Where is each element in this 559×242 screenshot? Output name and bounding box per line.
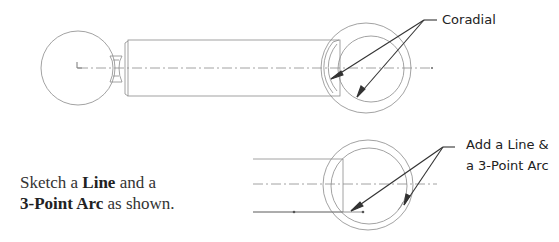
coradial-arc-inner xyxy=(328,44,337,91)
inner-circle-bottom xyxy=(331,148,407,224)
coradial-leader xyxy=(331,20,437,97)
callout-line-2: a 3-Point Arc xyxy=(466,155,549,176)
arrowhead-icon xyxy=(331,71,343,79)
instruction-text: Sketch a Line and a 3-Point Arc as shown… xyxy=(20,172,175,214)
instruction-part3: as shown. xyxy=(103,194,174,213)
inner-circle-top xyxy=(338,36,404,102)
add-line-arc-label: Add a Line & a 3-Point Arc xyxy=(466,134,549,176)
outer-circle-bottom xyxy=(323,140,413,230)
callout-line-1: Add a Line & xyxy=(466,134,549,155)
arrowhead-icon xyxy=(351,202,363,211)
three-point-arc xyxy=(398,202,403,210)
instruction-part1: Sketch a xyxy=(20,173,82,192)
arrowhead-icon xyxy=(357,86,365,97)
instruction-part2: and a xyxy=(115,173,156,192)
neck xyxy=(110,56,122,82)
coradial-label: Coradial xyxy=(442,9,496,30)
coradial-text: Coradial xyxy=(442,12,496,27)
instruction-line-2: 3-Point Arc as shown. xyxy=(20,193,175,214)
instruction-bold-arc: 3-Point Arc xyxy=(20,194,103,213)
origin-icon xyxy=(77,62,82,68)
instruction-bold-line: Line xyxy=(82,173,115,192)
cylinder-flange xyxy=(125,41,128,96)
instruction-line-1: Sketch a Line and a xyxy=(20,172,175,193)
